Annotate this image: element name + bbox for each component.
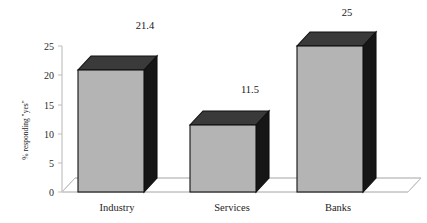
y-tick-label-20: 20 — [44, 70, 54, 81]
y-tick-label-10: 10 — [44, 129, 54, 140]
bar-services-top — [190, 111, 269, 125]
y-tick-label-5: 5 — [49, 158, 54, 169]
bar-services — [190, 111, 269, 192]
category-label-banks: Banks — [325, 202, 351, 213]
category-label-services: Services — [214, 202, 250, 213]
y-tick-label-25: 25 — [44, 41, 54, 52]
value-label-banks: 25 — [342, 7, 353, 18]
category-label-industry: Industry — [100, 202, 136, 213]
chart-container: 0 5 10 15 20 25 % responding "yes" — [0, 0, 427, 223]
bar-industry-top — [78, 56, 157, 70]
bar-banks-front — [297, 46, 363, 192]
value-label-services: 11.5 — [241, 84, 259, 95]
bar-chart-3d: 0 5 10 15 20 25 % responding "yes" — [0, 0, 427, 223]
bar-industry-side — [144, 56, 157, 192]
bar-services-side — [256, 111, 269, 192]
y-tick-label-15: 15 — [44, 100, 54, 111]
bar-banks-side — [363, 32, 376, 192]
y-tick-label-0: 0 — [49, 187, 54, 198]
bar-industry — [78, 56, 157, 192]
value-label-industry: 21.4 — [136, 20, 155, 31]
bar-services-front — [190, 125, 256, 192]
y-axis-title: % responding "yes" — [21, 100, 30, 159]
bar-banks — [297, 32, 376, 192]
bar-banks-top — [297, 32, 376, 46]
bar-industry-front — [78, 70, 144, 192]
